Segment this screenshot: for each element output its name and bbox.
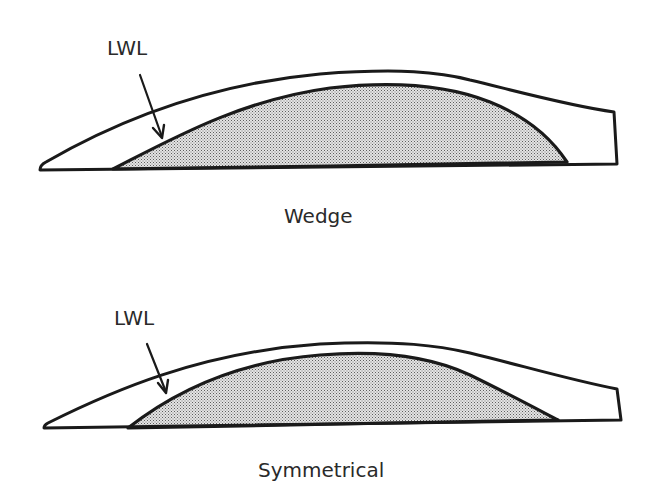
symmetrical-diagram	[44, 343, 621, 428]
wedge-lwl-arrow	[140, 75, 162, 137]
symmetrical-caption: Symmetrical	[258, 458, 384, 482]
wedge-lwl-label: LWL	[107, 36, 148, 60]
wedge-diagram	[40, 71, 617, 170]
symmetrical-lwl-label: LWL	[114, 306, 155, 330]
hull-shape-diagram: LWL Symmetrical Wedge LWL Symmetrical	[0, 0, 650, 492]
wedge-immersed-volume	[113, 84, 567, 169]
symmetrical-lwl-arrow	[147, 344, 166, 392]
wedge-caption-text: Wedge	[284, 204, 353, 228]
